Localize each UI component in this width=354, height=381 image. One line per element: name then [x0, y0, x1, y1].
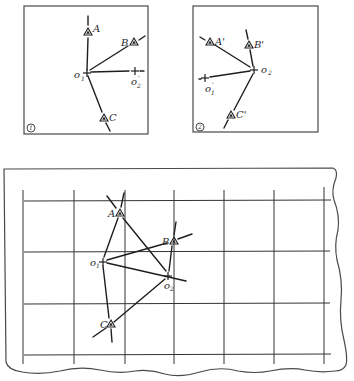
ray-o1-a [87, 38, 88, 70]
label-b-prime: B' [253, 39, 264, 50]
triangle-icon [107, 320, 115, 327]
plotted-point-o1-icon [99, 258, 107, 266]
triangle-icon [116, 209, 124, 216]
label-a: A [92, 23, 100, 34]
photo-panel-2: A' B' C' o 2 o 1 ' 2 [193, 6, 318, 132]
ray-o1-b [90, 46, 128, 70]
panel-number: 1 [29, 124, 33, 131]
panel-number: 2 [197, 123, 202, 130]
ray-a-extension-left [107, 196, 116, 208]
principal-point-icon [250, 66, 258, 74]
map-label-o2-sub: 2 [169, 285, 174, 292]
label-o1-sub: 1 [81, 75, 85, 82]
ray-c-extension [106, 123, 110, 131]
label-b: B [120, 37, 128, 48]
panel-2-frame [193, 6, 318, 132]
label-o2p-prime: ' [138, 74, 140, 81]
label-o1p-prime: ' [212, 81, 214, 88]
ray-o2-c [234, 74, 253, 110]
ray-o2-c [114, 279, 165, 322]
label-o1: o [74, 69, 80, 80]
map-label-c: C [100, 319, 108, 330]
transferred-point-icon [201, 74, 209, 82]
ray-b-extension [139, 36, 145, 40]
panel-1-frame [24, 6, 148, 134]
map-label-o1-sub: 1 [96, 262, 100, 269]
ray-o2-b [250, 50, 253, 66]
triangle-icon [227, 111, 235, 118]
map-sheet-border [4, 168, 347, 376]
label-c: C [109, 112, 117, 123]
label-c-prime: C' [236, 109, 246, 120]
label-a-prime: A' [214, 36, 225, 47]
label-o2: o [261, 64, 267, 75]
map-grid [23, 187, 331, 364]
ray-a-extension-right [121, 193, 124, 207]
triangle-icon [100, 114, 108, 121]
ray-o2-b [169, 246, 172, 271]
triangle-icon [206, 38, 214, 45]
ray-o1-a [104, 218, 118, 257]
ray-c-extension [224, 120, 228, 128]
triangle-icon [245, 41, 253, 48]
map-label-a: A [107, 208, 115, 219]
label-o1p-sub: 1 [211, 89, 215, 96]
ray-o1-c [103, 266, 109, 318]
triangle-icon [84, 28, 92, 35]
ray-c-extension-down [111, 329, 112, 342]
resection-diagram: A B C o 1 o 2 ' 1 A' B' C' o 2 o [0, 0, 354, 381]
ray-o1-c [88, 76, 102, 112]
ray-b-extension [246, 30, 248, 39]
ray-o2-o1p [210, 71, 250, 77]
ray-b-extension-right [178, 234, 192, 239]
map-sheet: A B C o 1 o 2 [4, 168, 347, 376]
map-label-b: B [161, 236, 169, 247]
triangle-icon [130, 38, 138, 45]
ray-o1-o2p [91, 71, 129, 72]
photo-panel-1: A B C o 1 o 2 ' 1 [24, 6, 148, 134]
ray-a-extension [200, 37, 205, 40]
label-o2-sub: 2 [267, 69, 272, 76]
label-o2p-sub: 2 [136, 82, 141, 89]
